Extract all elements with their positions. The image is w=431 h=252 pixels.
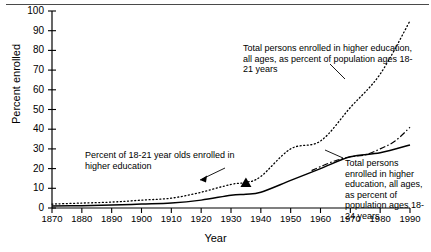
y-tick-label: 30 <box>14 144 44 154</box>
y-tick-label: 90 <box>14 26 44 36</box>
chart-container: Percent enrolled Year 100908070605040302… <box>0 0 431 252</box>
leader-line-right <box>325 150 343 158</box>
data-markers <box>240 177 251 187</box>
y-tick-label: 70 <box>14 65 44 75</box>
y-tick-label: 10 <box>14 183 44 193</box>
x-axis-label: Year <box>0 232 431 244</box>
y-tick-label: 100 <box>14 6 44 16</box>
y-tick-label: 60 <box>14 85 44 95</box>
annotation-percent-18-21-enrolled: Percent of 18-21 year olds enrolled in h… <box>85 150 235 171</box>
y-tick-label: 20 <box>14 164 44 174</box>
annotation-total-18-21: Total persons enrolled in higher educati… <box>243 43 419 75</box>
y-tick-label: 50 <box>14 105 44 115</box>
annotation-total-18-24: Total persons enrolled in higher educati… <box>345 158 431 221</box>
y-tick-label: 80 <box>14 45 44 55</box>
y-tick-label: 40 <box>14 124 44 134</box>
y-tick-label: 0 <box>14 203 44 213</box>
triangle-marker <box>240 177 251 187</box>
